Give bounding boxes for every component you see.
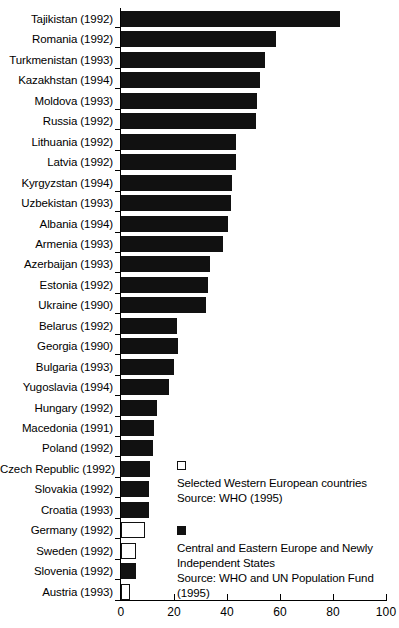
bar [121,31,276,47]
bar-category-label: Bulgaria (1993) [0,356,113,378]
bar [121,338,178,354]
bar [121,72,260,88]
bar-category-label: Romania (1992) [0,28,113,50]
bar [121,440,153,456]
legend-line: (1995) [177,586,399,601]
bar-row: Poland (1992) [0,437,399,459]
legend-entry-cee: Central and Eastern Europe and Newly Ind… [177,523,399,601]
bar-category-label: Latvia (1992) [0,151,113,173]
legend-line: Source: WHO and UN Population Fund [177,571,399,586]
bar [121,256,210,272]
bar-category-label: Tajikistan (1992) [0,8,113,30]
bar-category-label: Macedonia (1991) [0,417,113,439]
bar-category-label: Croatia (1993) [0,499,113,521]
bar-row: Latvia (1992) [0,151,399,173]
bar [121,52,265,68]
bar [121,543,136,559]
bar [121,584,130,600]
bar [121,154,236,170]
x-axis-tick-label: 60 [260,605,300,619]
bar [121,318,177,334]
bar [121,502,149,518]
bar [121,195,231,211]
bar [121,93,257,109]
bar-category-label: Armenia (1993) [0,233,113,255]
bar-row: Romania (1992) [0,28,399,50]
bar-category-label: Poland (1992) [0,437,113,459]
chart-legend: Selected Western European countries Sour… [177,458,399,601]
bar [121,481,149,497]
bar-row: Yugoslavia (1994) [0,376,399,398]
x-axis-tick-label: 20 [154,605,194,619]
x-axis-tick-label: 80 [313,605,353,619]
bar [121,113,256,129]
y-axis-tick [115,600,120,601]
bar-category-label: Slovakia (1992) [0,478,113,500]
bar-row: Albania (1994) [0,213,399,235]
bar-category-label: Azerbaijan (1993) [0,253,113,275]
bar [121,236,223,252]
bar [121,563,136,579]
legend-text-cee: Central and Eastern Europe and Newly Ind… [177,541,399,601]
bar-row: Lithuania (1992) [0,131,399,153]
bar [121,420,154,436]
bar [121,216,228,232]
bar [121,297,206,313]
bar-category-label: Hungary (1992) [0,397,113,419]
bar [121,175,232,191]
legend-text-western: Selected Western European countries Sour… [177,476,399,506]
bar-row: Macedonia (1991) [0,417,399,439]
legend-line: Central and Eastern Europe and Newly [177,541,399,556]
bar-category-label: Sweden (1992) [0,540,113,562]
bar-category-label: Georgia (1990) [0,335,113,357]
bar-category-label: Uzbekistan (1993) [0,192,113,214]
bar-row: Moldova (1993) [0,90,399,112]
bar-row: Azerbaijan (1993) [0,253,399,275]
legend-line: Independent States [177,556,399,571]
legend-line: Source: WHO (1995) [177,491,399,506]
bar-row: Kazakhstan (1994) [0,69,399,91]
bar-row: Turkmenistan (1993) [0,49,399,71]
bar-category-label: Austria (1993) [0,581,113,603]
bar-row: Uzbekistan (1993) [0,192,399,214]
bar-category-label: Germany (1992) [0,519,113,541]
bar-category-label: Kazakhstan (1994) [0,69,113,91]
bar-row: Bulgaria (1993) [0,356,399,378]
bar-category-label: Czech Republic (1992) [0,458,113,480]
bar-category-label: Russia (1992) [0,110,113,132]
bar-row: Hungary (1992) [0,397,399,419]
bar [121,11,340,27]
bar [121,379,169,395]
x-axis-tick-label: 100 [366,605,399,619]
bar-category-label: Lithuania (1992) [0,131,113,153]
bar-category-label: Kyrgyzstan (1994) [0,172,113,194]
legend-swatch-filled-icon [177,526,186,535]
bar [121,400,157,416]
bar-category-label: Slovenia (1992) [0,560,113,582]
bar-row: Armenia (1993) [0,233,399,255]
x-axis-tick-label: 40 [207,605,247,619]
legend-line: Selected Western European countries [177,476,399,491]
bar-row: Estonia (1992) [0,274,399,296]
bar-category-label: Moldova (1993) [0,90,113,112]
legend-swatch-hollow-icon [177,461,186,470]
bar-category-label: Turkmenistan (1993) [0,49,113,71]
bar-category-label: Ukraine (1990) [0,294,113,316]
bar-chart: 020406080100 Tajikistan (1992)Romania (1… [0,0,399,628]
bar-row: Georgia (1990) [0,335,399,357]
bar-category-label: Belarus (1992) [0,315,113,337]
bar [121,359,174,375]
bar-row: Russia (1992) [0,110,399,132]
bar [121,461,150,477]
bar-row: Belarus (1992) [0,315,399,337]
bar [121,277,208,293]
bar-category-label: Albania (1994) [0,213,113,235]
x-axis-tick-label: 0 [101,605,141,619]
bar [121,134,236,150]
bar-category-label: Yugoslavia (1994) [0,376,113,398]
legend-entry-western: Selected Western European countries Sour… [177,458,399,506]
bar-row: Kyrgyzstan (1994) [0,172,399,194]
bar-category-label: Estonia (1992) [0,274,113,296]
bar-row: Ukraine (1990) [0,294,399,316]
bar [121,522,145,538]
